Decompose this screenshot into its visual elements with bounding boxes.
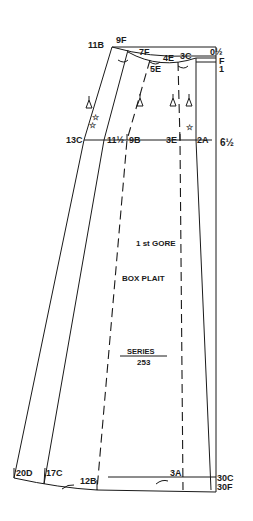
notch-icon	[170, 94, 176, 106]
notch-icon	[137, 94, 143, 106]
label-3e: 3E	[166, 135, 177, 145]
outer-left-edge	[14, 47, 112, 478]
star-icon: ☆	[186, 123, 194, 132]
label-6-half: 6½	[220, 137, 234, 148]
label-20d: 20D	[16, 468, 33, 478]
star-icon: ☆	[89, 121, 97, 130]
label-13c: 13C	[66, 135, 83, 145]
series-number: 253	[137, 358, 151, 367]
notch-icon	[186, 94, 192, 106]
notch-icon	[86, 96, 92, 108]
series-label: SERIES	[127, 347, 155, 356]
label-4e: 4E	[163, 53, 174, 63]
label-7f: 7F	[139, 47, 150, 57]
box-plait-label: BOX PLAIT	[122, 274, 165, 283]
label-12b: 12B	[80, 476, 97, 486]
notch-icon	[156, 480, 168, 484]
notch-icon	[118, 60, 128, 62]
gore-pattern-diagram: ☆ ☆ ☆ 11B 9F 7F 4E 5E 3C 0½ F 1 13C 11½ …	[0, 0, 253, 521]
label-9f: 9F	[116, 35, 127, 45]
label-2a: 2A	[197, 135, 209, 145]
label-3c: 3C	[180, 51, 192, 61]
notch-icon	[178, 66, 188, 68]
label-9b: 9B	[129, 135, 141, 145]
label-30f: 30F	[217, 482, 233, 492]
label-11-half: 11½	[107, 135, 125, 145]
label-3a: 3A	[170, 468, 182, 478]
label-1: 1	[219, 64, 224, 74]
second-left-line	[44, 50, 128, 484]
label-11b: 11B	[88, 40, 105, 50]
star-markers: ☆ ☆ ☆	[89, 113, 194, 132]
box-plait-right-fold	[178, 62, 183, 490]
gore-title: 1 st GORE	[136, 239, 176, 248]
label-17c: 17C	[46, 468, 63, 478]
label-5e: 5E	[150, 64, 161, 74]
inner-right-line	[196, 58, 211, 490]
